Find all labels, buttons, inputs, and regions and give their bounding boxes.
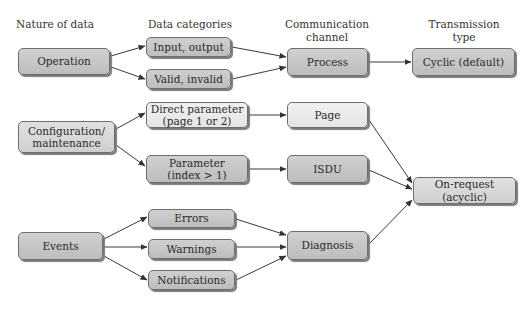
edge-diagnosis-on-request [369, 200, 412, 244]
node-valid-invalid-label: Valid, invalid [154, 73, 223, 86]
edge-events-errors [104, 217, 147, 239]
node-operation-label: Operation [37, 55, 90, 68]
node-cyclic-default: Cyclic (default) [412, 48, 515, 76]
node-process-label: Process [307, 56, 348, 69]
node-isdu-label: ISDU [313, 163, 342, 176]
node-input-output: Input, output [146, 37, 231, 57]
node-parameter-line2: (index > 1) [167, 169, 226, 182]
node-page: Page [287, 102, 368, 128]
edge-page-on-request [369, 120, 412, 183]
node-direct-parameter-line2: (page 1 or 2) [151, 115, 243, 128]
node-page-label: Page [315, 109, 341, 122]
edge-events-notifications [104, 256, 147, 280]
edge-notifications-diagnosis [236, 256, 286, 280]
node-process: Process [287, 48, 368, 76]
node-on-request-acyclic: On-request (acyclic) [413, 177, 516, 204]
node-errors: Errors [148, 209, 235, 228]
node-parameter: Parameter (index > 1) [146, 155, 248, 183]
node-configuration-label-line1: Configuration/ [28, 125, 105, 138]
node-operation: Operation [18, 48, 110, 75]
node-cyclic-label: Cyclic (default) [423, 56, 504, 69]
node-isdu: ISDU [287, 155, 368, 183]
edge-configuration-direct-parameter [116, 113, 145, 129]
edges-layer [0, 0, 532, 309]
edge-operation-input-output [111, 46, 145, 56]
node-notifications: Notifications [148, 270, 235, 290]
node-diagnosis: Diagnosis [287, 231, 368, 260]
node-diagnosis-label: Diagnosis [302, 239, 354, 252]
node-valid-invalid: Valid, invalid [146, 69, 231, 89]
node-warnings: Warnings [148, 239, 235, 259]
edge-configuration-parameter [116, 145, 145, 166]
edge-errors-diagnosis [236, 219, 286, 235]
node-events-label: Events [42, 240, 78, 253]
node-configuration-label-line2: maintenance [28, 137, 105, 150]
edge-operation-valid-invalid [111, 67, 145, 79]
node-parameter-line1: Parameter [167, 157, 226, 170]
edge-input-output-process [232, 47, 286, 57]
node-configuration-maintenance: Configuration/ maintenance [18, 121, 115, 153]
node-direct-parameter-line1: Direct parameter [151, 103, 243, 116]
node-errors-label: Errors [174, 212, 208, 225]
node-input-output-label: Input, output [153, 41, 223, 54]
node-notifications-label: Notifications [157, 274, 225, 287]
node-warnings-label: Warnings [166, 243, 216, 256]
edge-valid-invalid-process [232, 67, 286, 79]
node-events: Events [18, 232, 103, 260]
node-direct-parameter: Direct parameter (page 1 or 2) [146, 102, 248, 128]
node-on-request-label: On-request (acyclic) [414, 178, 515, 203]
